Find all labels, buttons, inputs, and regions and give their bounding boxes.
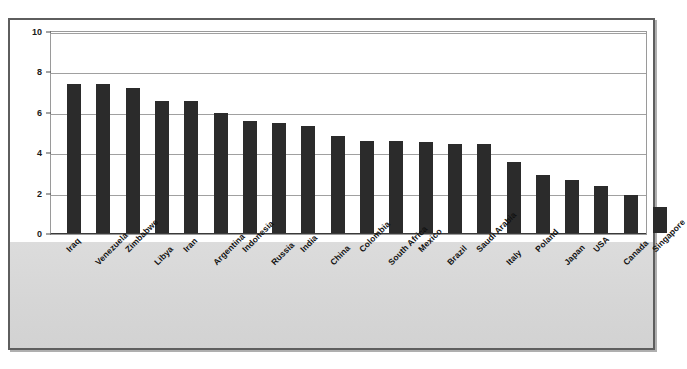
bar bbox=[594, 186, 608, 233]
plot-area bbox=[50, 31, 647, 235]
y-tick-mark-8 bbox=[46, 72, 51, 73]
bar bbox=[477, 144, 491, 233]
bar bbox=[272, 123, 286, 233]
bar bbox=[243, 121, 257, 233]
y-tick-mark-2 bbox=[46, 193, 51, 194]
y-tick-label-4: 4 bbox=[16, 148, 42, 158]
bar bbox=[565, 180, 579, 233]
bar bbox=[360, 141, 374, 233]
bar bbox=[155, 101, 169, 233]
gridline-10 bbox=[51, 33, 646, 34]
y-tick-mark-10 bbox=[46, 32, 51, 33]
bar bbox=[653, 207, 667, 233]
y-tick-mark-6 bbox=[46, 112, 51, 113]
bar bbox=[67, 84, 81, 233]
bar bbox=[419, 142, 433, 233]
y-tick-label-10: 10 bbox=[16, 27, 42, 37]
gridline-2 bbox=[51, 195, 646, 196]
bar bbox=[96, 84, 110, 233]
bar bbox=[184, 101, 198, 233]
bar bbox=[389, 141, 403, 233]
gridline-8 bbox=[51, 73, 646, 74]
bar bbox=[214, 113, 228, 233]
y-tick-label-0: 0 bbox=[16, 229, 42, 239]
gridline-6 bbox=[51, 114, 646, 115]
bar bbox=[331, 136, 345, 233]
gridline-4 bbox=[51, 154, 646, 155]
bar bbox=[536, 175, 550, 233]
y-tick-mark-0 bbox=[46, 234, 51, 235]
chart-frame: 0246810 IraqVenezuelaZimbabweLibyaIranAr… bbox=[8, 18, 655, 350]
bar bbox=[301, 126, 315, 233]
bar bbox=[126, 88, 140, 233]
y-tick-label-6: 6 bbox=[16, 108, 42, 118]
bar bbox=[448, 144, 462, 233]
y-tick-label-8: 8 bbox=[16, 67, 42, 77]
y-tick-label-2: 2 bbox=[16, 189, 42, 199]
y-tick-mark-4 bbox=[46, 153, 51, 154]
bar bbox=[624, 195, 638, 233]
